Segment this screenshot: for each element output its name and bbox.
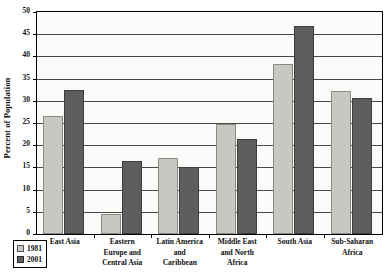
legend-item-2001: 2001 — [17, 254, 42, 265]
x-axis-category-label: Latin AmericaandCaribbean — [151, 237, 209, 269]
legend: 1981 2001 — [13, 240, 47, 268]
bar-group — [95, 12, 153, 234]
y-axis-tick-label: 40 — [23, 52, 31, 60]
x-axis-category-label-line: Caribbean — [151, 258, 209, 269]
x-axis-category-label-line: Europe and — [94, 248, 152, 259]
x-axis-category-label-line: Central Asia — [94, 258, 152, 269]
bar-2001 — [352, 98, 372, 234]
bar-1981 — [43, 116, 63, 234]
legend-item-1981: 1981 — [17, 243, 42, 254]
bar-2001 — [122, 161, 142, 234]
x-axis-category-label-line: Africa — [324, 248, 382, 259]
x-axis-category-labels: East AsiaEasternEurope andCentral AsiaLa… — [36, 237, 383, 272]
x-axis-category-label-line: and — [151, 248, 209, 259]
x-axis-category-label-line: and North — [209, 248, 267, 259]
y-axis-tick-label: 30 — [23, 96, 31, 104]
x-axis-category-label: South Asia — [266, 237, 324, 248]
x-axis-category-label-line: Eastern — [94, 237, 152, 248]
bars-layer — [37, 12, 382, 234]
x-axis-category-label-line: Sub-Saharan — [324, 237, 382, 248]
y-axis-tick-label: 25 — [23, 118, 31, 126]
x-axis-category-label: Middle Eastand NorthAfrica — [209, 237, 267, 269]
bar-2001 — [64, 90, 84, 234]
y-axis-tick-label: 45 — [23, 29, 31, 37]
bar-group — [152, 12, 210, 234]
y-axis-tick-labels: 05101520253035404550 — [14, 0, 32, 240]
bar-2001 — [294, 26, 314, 234]
x-axis-category-label-line: Latin America — [151, 237, 209, 248]
legend-swatch-icon-2001 — [17, 256, 24, 263]
legend-label-2001: 2001 — [27, 256, 42, 264]
legend-swatch-icon-1981 — [17, 245, 24, 252]
x-axis-category-label-line: Africa — [209, 258, 267, 269]
bar-1981 — [158, 158, 178, 234]
y-axis-tick-label: 35 — [23, 74, 31, 82]
y-axis-tick-label: 20 — [23, 140, 31, 148]
x-axis-category-label: EasternEurope andCentral Asia — [94, 237, 152, 269]
y-axis-tick-label: 5 — [26, 207, 30, 215]
bar-1981 — [273, 64, 293, 234]
y-axis-tick-label: 10 — [23, 185, 31, 193]
y-axis-tick-label: 0 — [26, 229, 30, 237]
bar-group — [325, 12, 383, 234]
bar-1981 — [331, 91, 351, 234]
y-axis-tick-label: 15 — [23, 163, 31, 171]
bar-chart: Percent of Population 051015202530354045… — [0, 0, 392, 272]
bar-group — [37, 12, 95, 234]
y-axis-title: Percent of Population — [0, 0, 14, 236]
bar-group — [267, 12, 325, 234]
legend-label-1981: 1981 — [27, 245, 42, 253]
bar-group — [210, 12, 268, 234]
y-axis-tick-label: 50 — [23, 7, 31, 15]
x-axis-category-label-line: South Asia — [266, 237, 324, 248]
bar-1981 — [216, 124, 236, 234]
x-axis-category-label: Sub-SaharanAfrica — [324, 237, 382, 258]
y-axis-title-text: Percent of Population — [2, 78, 12, 159]
bar-2001 — [179, 167, 199, 234]
plot-area — [36, 11, 383, 235]
x-axis-category-label-line: Middle East — [209, 237, 267, 248]
bar-1981 — [101, 214, 121, 234]
bar-2001 — [237, 139, 257, 234]
